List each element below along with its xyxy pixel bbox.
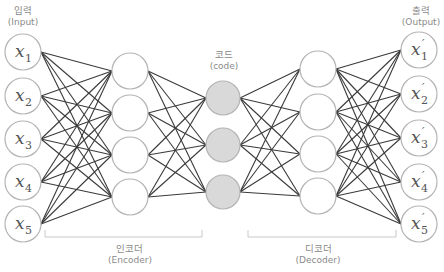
code-node-1 xyxy=(206,81,240,115)
connection-edge xyxy=(240,112,300,145)
input-node-3: x3 xyxy=(5,121,41,157)
node-subscript: 3 xyxy=(25,139,32,152)
connection-edge xyxy=(240,98,300,112)
output-node-4: x′4 xyxy=(401,164,437,200)
connection-edge xyxy=(336,154,401,182)
node-subscript: 5 xyxy=(421,224,428,237)
encoder-label-ko: 인코더 xyxy=(108,244,152,254)
connection-edge xyxy=(148,71,206,145)
output-label: 출력 (Output) xyxy=(402,6,440,27)
neuron-circle xyxy=(206,128,240,162)
connection-edge xyxy=(148,71,206,98)
connection-edge xyxy=(148,98,206,197)
node-label: x xyxy=(15,85,25,105)
node-subscript: 1 xyxy=(421,50,428,63)
output-node-3: x′3 xyxy=(401,120,437,156)
connection-edge xyxy=(240,192,300,196)
encoder-bracket xyxy=(45,230,202,237)
input-node-4: x4 xyxy=(5,164,41,200)
code-node-2 xyxy=(206,128,240,162)
connection-edge xyxy=(148,192,206,197)
decoder-hidden-node-1 xyxy=(300,51,336,87)
connection-edge xyxy=(240,69,300,98)
input-node-1: x1 xyxy=(5,34,41,70)
decoder-hidden-node-2 xyxy=(300,94,336,130)
encoder-hidden-node-4 xyxy=(112,179,148,215)
node-subscript: 4 xyxy=(25,182,32,195)
node-subscript: 5 xyxy=(25,224,32,237)
code-node-3 xyxy=(206,175,240,209)
neuron-circle xyxy=(206,175,240,209)
decoder-label: 디코더 (Decoder) xyxy=(296,244,341,265)
neuron-circle xyxy=(112,137,148,173)
code-label-en: (code) xyxy=(210,62,239,71)
output-label-en: (Output) xyxy=(402,18,440,27)
encoder-hidden-node-3 xyxy=(112,137,148,173)
decoder-label-en: (Decoder) xyxy=(296,256,341,265)
connection-edge xyxy=(336,112,401,138)
node-label: x xyxy=(15,213,25,233)
output-label-ko: 출력 xyxy=(402,6,440,16)
autoencoder-diagram: x1x2x3x4x5x′1x′2x′3x′4x′5 입력 (Input) 출력 … xyxy=(0,0,444,272)
node-subscript: 2 xyxy=(25,96,32,109)
neuron-circle xyxy=(300,94,336,130)
neuron-circle xyxy=(300,178,336,214)
input-label: 입력 (Input) xyxy=(8,6,38,27)
network-graph: x1x2x3x4x5x′1x′2x′3x′4x′5 xyxy=(0,0,444,272)
node-label: x xyxy=(15,128,25,148)
node-label: x xyxy=(411,213,421,233)
connection-edge xyxy=(41,52,112,197)
connection-edge xyxy=(148,98,206,113)
section-brackets xyxy=(45,230,396,237)
connection-edge xyxy=(240,98,300,196)
node-label: x xyxy=(15,41,25,61)
output-node-2: x′2 xyxy=(401,76,437,112)
connection-edge xyxy=(41,113,112,224)
decoder-hidden-node-3 xyxy=(300,136,336,172)
input-label-en: (Input) xyxy=(8,18,38,27)
node-label: x xyxy=(15,171,25,191)
encoder-hidden-node-2 xyxy=(112,95,148,131)
node-label: x xyxy=(411,39,421,59)
decoder-hidden-node-4 xyxy=(300,178,336,214)
neuron-circle xyxy=(112,95,148,131)
neuron-circle xyxy=(112,53,148,89)
decoder-bracket xyxy=(248,230,396,237)
neuron-circle xyxy=(206,81,240,115)
input-label-ko: 입력 xyxy=(8,6,38,16)
neuron-circle xyxy=(300,136,336,172)
input-node-5: x5 xyxy=(5,206,41,242)
encoder-hidden-node-1 xyxy=(112,53,148,89)
neuron-circle xyxy=(112,179,148,215)
node-label: x xyxy=(411,83,421,103)
node-subscript: 1 xyxy=(25,52,32,65)
node-subscript: 4 xyxy=(421,182,428,195)
node-subscript: 3 xyxy=(421,138,428,151)
code-label-ko: 코드 xyxy=(210,50,239,60)
output-node-5: x′5 xyxy=(401,206,437,242)
connection-edge xyxy=(336,182,401,196)
code-label: 코드 (code) xyxy=(210,50,239,71)
neuron-circle xyxy=(300,51,336,87)
node-label: x xyxy=(411,171,421,191)
node-subscript: 2 xyxy=(421,94,428,107)
encoder-label-en: (Encoder) xyxy=(108,256,152,265)
decoder-label-ko: 디코더 xyxy=(296,244,341,254)
node-label: x xyxy=(411,127,421,147)
output-node-1: x′1 xyxy=(401,32,437,68)
input-node-2: x2 xyxy=(5,78,41,114)
connection-edge xyxy=(148,113,206,145)
encoder-label: 인코더 (Encoder) xyxy=(108,244,152,265)
